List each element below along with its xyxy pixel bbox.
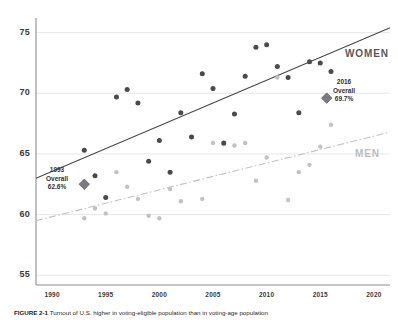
scatter-plot xyxy=(0,0,398,320)
x-tick-label-2015: 2015 xyxy=(300,291,340,298)
callout-1993-value: 62.6% xyxy=(33,183,81,192)
x-tick-label-1995: 1995 xyxy=(86,291,126,298)
y-tick-label-55: 55 xyxy=(8,269,30,279)
callout-2016-value: 69.7% xyxy=(320,95,368,104)
gridlines xyxy=(36,33,390,276)
data-point-women xyxy=(221,141,226,146)
data-point-women xyxy=(93,173,98,178)
data-point-men xyxy=(114,170,118,174)
trendline-men xyxy=(36,132,390,221)
callout-2016-word: Overall xyxy=(320,87,368,96)
data-point-women xyxy=(168,170,173,175)
data-point-women xyxy=(82,148,87,153)
data-point-men xyxy=(264,155,268,159)
data-point-men xyxy=(243,141,247,145)
data-point-women xyxy=(135,100,140,105)
data-point-men xyxy=(232,143,236,147)
x-tick-label-2000: 2000 xyxy=(139,291,179,298)
figure-caption-text: Turnout of U.S. higher in voting-eligibl… xyxy=(50,309,268,316)
data-point-women xyxy=(157,138,162,143)
callout-1993-year: 1993 xyxy=(33,166,81,175)
data-point-men xyxy=(146,214,150,218)
data-point-men xyxy=(297,170,301,174)
data-point-women xyxy=(307,59,312,64)
data-point-women xyxy=(253,45,258,50)
callout-1993: 1993 Overall 62.6% xyxy=(33,166,81,192)
chart-container: 5560657075 1990199520002005201020152020 … xyxy=(0,0,398,320)
data-point-women xyxy=(103,195,108,200)
data-point-women xyxy=(232,111,237,116)
x-tick-label-1990: 1990 xyxy=(32,291,72,298)
data-point-men xyxy=(286,198,290,202)
series-label-men: MEN xyxy=(355,148,380,159)
trend-lines xyxy=(36,28,390,221)
callout-2016: 2016 Overall 69.7% xyxy=(320,78,368,104)
data-point-men xyxy=(200,197,204,201)
figure-number: FIGURE 2-1 xyxy=(14,309,48,316)
data-point-men xyxy=(125,184,129,188)
data-point-women xyxy=(178,110,183,115)
data-point-women xyxy=(296,110,301,115)
x-tick-label-2005: 2005 xyxy=(193,291,233,298)
data-point-women xyxy=(275,64,280,69)
data-point-men xyxy=(318,144,322,148)
data-point-women xyxy=(200,71,205,76)
y-tick-label-70: 70 xyxy=(8,87,30,97)
data-points-men xyxy=(82,75,333,220)
data-point-women xyxy=(286,75,291,80)
y-tick-label-60: 60 xyxy=(8,209,30,219)
data-point-men xyxy=(82,216,86,220)
data-point-men xyxy=(329,123,333,127)
data-point-women xyxy=(189,134,194,139)
data-point-men xyxy=(136,197,140,201)
series-label-women: WOMEN xyxy=(345,48,389,59)
overall-markers xyxy=(79,93,332,190)
data-point-women xyxy=(318,60,323,65)
data-point-men xyxy=(254,178,258,182)
data-point-women xyxy=(264,42,269,47)
data-point-men xyxy=(211,141,215,145)
data-point-women xyxy=(329,69,334,74)
x-tick-label-2020: 2020 xyxy=(354,291,394,298)
data-point-men xyxy=(104,211,108,215)
data-point-men xyxy=(275,75,279,79)
data-point-men xyxy=(93,206,97,210)
data-point-women xyxy=(243,74,248,79)
data-point-men xyxy=(307,163,311,167)
data-points-women xyxy=(82,42,334,200)
y-tick-label-65: 65 xyxy=(8,148,30,158)
data-point-women xyxy=(211,86,216,91)
data-point-women xyxy=(146,159,151,164)
figure-caption: FIGURE 2-1 Turnout of U.S. higher in vot… xyxy=(14,309,388,317)
data-point-women xyxy=(114,94,119,99)
callout-2016-year: 2016 xyxy=(320,78,368,87)
axis-lines xyxy=(36,18,390,285)
data-point-women xyxy=(125,87,130,92)
data-point-men xyxy=(179,199,183,203)
data-point-men xyxy=(168,187,172,191)
x-tick-label-2010: 2010 xyxy=(247,291,287,298)
data-point-men xyxy=(157,216,161,220)
callout-1993-word: Overall xyxy=(33,175,81,184)
y-tick-label-75: 75 xyxy=(8,27,30,37)
